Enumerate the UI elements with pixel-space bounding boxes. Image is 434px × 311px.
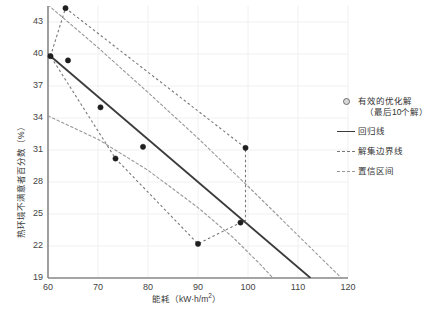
legend-label: 有效的优化解（最后10个解）	[358, 96, 434, 117]
y-tick-label: 43	[17, 16, 43, 26]
x-tick-label: 100	[233, 282, 263, 292]
legend-label: 解集边界线	[358, 146, 434, 157]
x-tick-label: 70	[83, 282, 113, 292]
x-tick-label: 120	[333, 282, 363, 292]
legend-item[interactable]: 置信区间	[336, 166, 434, 177]
y-tick-label: 22	[17, 240, 43, 250]
x-axis-title-tail: ）	[212, 294, 221, 304]
legend-marker-circle-icon	[336, 96, 356, 107]
x-tick-label: 110	[283, 282, 313, 292]
grid-lines	[48, 6, 348, 278]
x-axis-title: 能耗（kW·h/m2）	[152, 292, 221, 304]
x-tick-label: 90	[183, 282, 213, 292]
y-tick-label: 37	[17, 80, 43, 90]
chart-legend: 有效的优化解（最后10个解）回归线解集边界线置信区间	[336, 96, 434, 186]
legend-item[interactable]: 解集边界线	[336, 146, 434, 157]
x-tick-label: 60	[33, 282, 63, 292]
legend-marker-solid-icon	[336, 126, 356, 137]
legend-marker-dash-icon	[336, 146, 356, 157]
y-tick-label: 40	[17, 48, 43, 58]
x-axis-title-main: 能耗（kW·h/m	[152, 294, 208, 304]
y-axis-title: 热环境不满意者百分数（%）	[14, 122, 26, 238]
y-tick-label: 34	[17, 112, 43, 122]
y-tick-label: 19	[17, 272, 43, 282]
x-tick-label: 80	[133, 282, 163, 292]
legend-label: 置信区间	[358, 166, 434, 177]
legend-marker-dashdot-icon	[336, 166, 356, 177]
chart-figure: 19222528313437404360708090100110120 热环境不…	[0, 0, 434, 311]
legend-sublabel: （最后10个解）	[358, 107, 434, 118]
regression-line	[48, 54, 311, 278]
legend-item[interactable]: 有效的优化解（最后10个解）	[336, 96, 434, 117]
legend-label: 回归线	[358, 126, 434, 137]
legend-item[interactable]: 回归线	[336, 126, 434, 137]
